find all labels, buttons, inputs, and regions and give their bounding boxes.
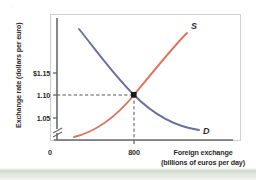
x-axis-title-line1: Foreign exchange [173,148,232,157]
y-tick-label-110: 1.10 [37,91,50,100]
x-axis-title-line2: (billions of euros per day) [161,158,246,167]
exchange-rate-supply-demand-chart: $1.15 1.10 1.05 0 800 Exchange rate (dol… [0,0,256,180]
y-tick-label-105: 1.05 [37,114,50,123]
x-tick-label-800: 800 [128,148,140,157]
page-bottom-strip [0,168,256,180]
y-axis-title: Exchange rate (dollars per euro) [14,22,23,128]
x-tick-label-0: 0 [48,148,52,157]
demand-curve-label: D [203,126,210,136]
figure-container: $1.15 1.10 1.05 0 800 Exchange rate (dol… [0,0,256,180]
equilibrium-marker [131,92,137,98]
supply-curve-label: S [191,21,197,31]
plot-frame [51,15,241,141]
y-tick-label-115: $1.15 [33,69,50,78]
